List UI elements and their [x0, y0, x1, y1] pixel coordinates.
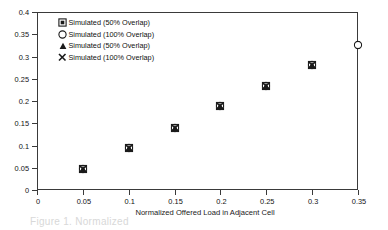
legend-item[interactable]: Simulated (100% Overlap) — [57, 52, 197, 64]
legend-item-label: Simulated (100% Overlap) — [69, 30, 155, 39]
y-tick: 0.2 — [32, 101, 37, 102]
y-tick-label: 0.3 — [19, 53, 29, 62]
y-tick: 0.1 — [32, 146, 37, 147]
y-tick: 0.4 — [32, 12, 37, 13]
x-tick-label: 0.25 — [260, 197, 274, 206]
y-tick: 0.05 — [32, 168, 37, 169]
legend-item[interactable]: Simulated (100% Overlap) — [57, 29, 197, 41]
legend-item-label: Simulated (100% Overlap) — [69, 53, 155, 62]
x-tick-label: 0.1 — [125, 197, 135, 206]
y-tick-label: 0 — [25, 186, 29, 195]
triangle-marker-icon — [57, 40, 68, 51]
legend-item-label: Simulated (50% Overlap) — [69, 41, 151, 50]
cross-x-marker-icon — [57, 52, 68, 63]
x-tick: 0.1 — [129, 190, 130, 195]
data-point-marker — [216, 102, 225, 111]
x-tick: 0.05 — [83, 190, 84, 195]
x-tick-label: 0.15 — [168, 197, 182, 206]
y-tick: 0.3 — [32, 57, 37, 58]
chart-legend: Simulated (50% Overlap)Simulated (100% O… — [57, 17, 197, 63]
data-point-marker — [262, 82, 271, 91]
x-tick-label: 0.05 — [77, 197, 91, 206]
y-tick-label: 0.35 — [15, 30, 29, 39]
data-point-marker — [79, 164, 88, 173]
data-point-marker — [170, 123, 179, 132]
x-tick-label: 0 — [36, 197, 40, 206]
y-tick-label: 0.05 — [15, 164, 29, 173]
y-tick: 0.35 — [32, 34, 37, 35]
data-point-marker — [308, 61, 317, 70]
figure-caption: Figure 1. Normalized — [30, 216, 129, 227]
x-tick: 0.2 — [220, 190, 221, 195]
y-tick-label: 0.4 — [19, 8, 29, 17]
legend-item[interactable]: Simulated (50% Overlap) — [57, 40, 197, 52]
figure-container: Normalized Periodic Traffic Channel Util… — [0, 0, 388, 230]
x-tick: 0 — [37, 190, 38, 195]
y-tick-label: 0.15 — [15, 119, 29, 128]
legend-item[interactable]: Simulated (50% Overlap) — [57, 17, 197, 29]
y-tick-label: 0.1 — [19, 142, 29, 151]
data-point-marker — [124, 143, 133, 152]
x-tick-label: 0.35 — [352, 197, 366, 206]
x-tick: 0.25 — [266, 190, 267, 195]
square-marker-icon — [57, 17, 68, 28]
circle-marker-icon — [57, 29, 68, 40]
y-tick-label: 0.25 — [15, 75, 29, 84]
x-tick: 0.35 — [358, 190, 359, 195]
legend-item-label: Simulated (50% Overlap) — [69, 18, 151, 27]
x-tick: 0.3 — [312, 190, 313, 195]
x-tick-label: 0.2 — [216, 197, 226, 206]
x-tick-label: 0.3 — [308, 197, 318, 206]
data-point-marker — [354, 41, 363, 50]
y-tick: 0.15 — [32, 123, 37, 124]
y-tick: 0.25 — [32, 79, 37, 80]
y-tick-label: 0.2 — [19, 97, 29, 106]
x-tick: 0.15 — [175, 190, 176, 195]
